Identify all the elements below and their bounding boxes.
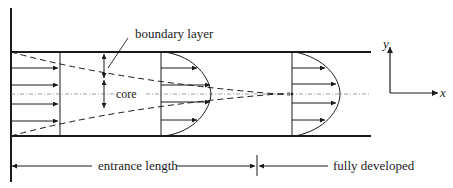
entrance-length-label: entrance length: [98, 158, 178, 173]
coordinate-axes: [390, 47, 438, 93]
axis-y-label: y: [381, 36, 389, 51]
boundary-layer-edge-top: [11, 52, 290, 95]
boundary-layer-edge-bottom: [11, 93, 290, 136]
entrance-flow-diagram: boundary layer core y x entrance length …: [0, 0, 453, 188]
fully-developed-label: fully developed: [333, 158, 415, 173]
axis-x-label: x: [439, 85, 446, 100]
core-label: core: [116, 87, 137, 101]
inlet-uniform-profile: [11, 68, 58, 121]
boundary-layer-label: boundary layer: [135, 26, 214, 41]
